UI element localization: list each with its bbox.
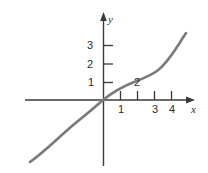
y-axis-ticks xyxy=(104,46,114,83)
y-axis-label: y xyxy=(108,14,113,25)
x-tick-label-3: 3 xyxy=(152,104,158,115)
x-tick-label-2: 2 xyxy=(134,77,140,88)
plot-canvas xyxy=(0,0,208,173)
x-axis-label: x xyxy=(191,104,196,115)
y-tick-label-2: 2 xyxy=(87,59,93,70)
y-axis xyxy=(100,12,107,166)
graph-figure: 3 2 1 1 2 3 4 y x xyxy=(0,0,208,173)
x-tick-label-1: 1 xyxy=(118,104,124,115)
x-axis-ticks xyxy=(121,91,172,100)
function-curve xyxy=(30,33,186,162)
y-tick-label-3: 3 xyxy=(87,40,93,51)
x-tick-label-4: 4 xyxy=(169,104,175,115)
y-tick-label-1: 1 xyxy=(88,77,94,88)
